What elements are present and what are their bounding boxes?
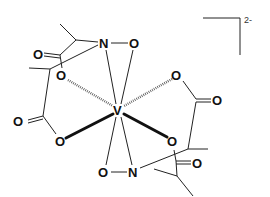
atom-n-top: N	[99, 36, 108, 51]
atom-o-carbonyl-3: O	[212, 93, 222, 108]
atom-v: V	[113, 103, 122, 118]
atom-o-upper-left: O	[56, 68, 66, 83]
atom-o-carbonyl-4: O	[192, 156, 202, 171]
atom-o-n-bottom: O	[98, 165, 108, 180]
bottom-ligand-bonds	[106, 81, 211, 196]
charge-bracket: 2-	[203, 15, 252, 55]
atom-n-bottom: N	[128, 165, 137, 180]
atom-o-lower-left: O	[55, 134, 65, 149]
atom-o-upper-right: O	[171, 68, 181, 83]
atom-o-carbonyl-2: O	[13, 114, 23, 129]
charge-label: 2-	[244, 15, 252, 25]
atom-o-lower-right: O	[167, 134, 177, 149]
atom-o-n-top: O	[129, 36, 139, 51]
atom-o-carbonyl-1: O	[33, 47, 43, 62]
vanadium-complex-structure: 2-	[0, 0, 270, 197]
